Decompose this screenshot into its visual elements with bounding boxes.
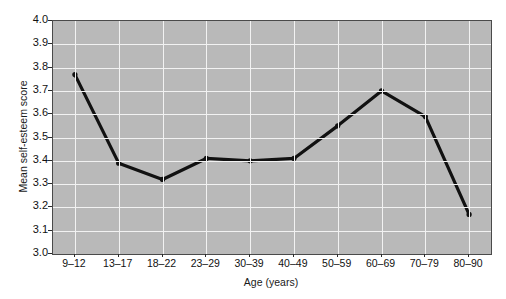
x-tick-mark xyxy=(162,254,163,257)
grid-line-vertical xyxy=(206,21,207,254)
y-tick-label: 3.2 xyxy=(26,200,48,212)
grid-line-vertical xyxy=(163,21,164,254)
grid-line-vertical xyxy=(294,21,295,254)
y-tick-label: 3.7 xyxy=(26,84,48,96)
grid-line-vertical xyxy=(382,21,383,254)
y-tick-value: 3.2 xyxy=(26,200,48,211)
y-tick-label: 3.4 xyxy=(26,154,48,166)
series-polyline xyxy=(75,75,469,215)
y-tick-value: 3.3 xyxy=(26,177,48,188)
grid-line-vertical xyxy=(425,21,426,254)
y-tick-value: 3.8 xyxy=(26,61,48,72)
x-tick-mark xyxy=(337,254,338,257)
y-tick-value: 4.0 xyxy=(26,14,48,25)
x-tick-mark xyxy=(424,254,425,257)
grid-line-vertical xyxy=(250,21,251,254)
y-tick-mark xyxy=(48,253,52,254)
y-tick-label: 3.1 xyxy=(26,224,48,236)
y-tick-value: 3.7 xyxy=(26,84,48,95)
y-tick-label: 4.0 xyxy=(26,14,48,26)
x-axis-title: Age (years) xyxy=(52,276,490,288)
y-tick-mark xyxy=(48,90,52,91)
y-tick-label: 3.8 xyxy=(26,61,48,73)
x-axis-tick-labels: 9–1213–1718–2223–2930–3940–4950–5960–697… xyxy=(0,256,506,272)
y-tick-value: 3.1 xyxy=(26,224,48,235)
x-tick-mark xyxy=(293,254,294,257)
grid-line-vertical xyxy=(338,21,339,254)
y-tick-label: 3.3 xyxy=(26,177,48,189)
y-tick-label: 3.6 xyxy=(26,107,48,119)
x-tick-mark xyxy=(205,254,206,257)
x-tick-mark xyxy=(468,254,469,257)
y-tick-value: 3.5 xyxy=(26,131,48,142)
y-tick-mark xyxy=(48,160,52,161)
grid-line-vertical xyxy=(75,21,76,254)
grid-line-vertical xyxy=(469,21,470,254)
y-tick-mark xyxy=(48,137,52,138)
x-tick-mark xyxy=(381,254,382,257)
series-markers xyxy=(72,72,471,217)
plot-area xyxy=(52,20,492,255)
y-tick-label: 3.5 xyxy=(26,131,48,143)
y-tick-mark xyxy=(48,183,52,184)
y-tick-mark xyxy=(48,20,52,21)
x-tick-mark xyxy=(74,254,75,257)
y-tick-mark xyxy=(48,206,52,207)
y-tick-label: 3.9 xyxy=(26,37,48,49)
y-axis-tick-labels: 4.03.93.83.73.63.53.43.33.23.13.0 xyxy=(26,0,48,299)
y-tick-mark xyxy=(48,67,52,68)
y-tick-mark xyxy=(48,43,52,44)
y-tick-mark xyxy=(48,230,52,231)
y-tick-mark xyxy=(48,113,52,114)
y-tick-value: 3.4 xyxy=(26,154,48,165)
chart-figure: Mean self-esteem score 4.03.93.83.73.63.… xyxy=(0,0,506,299)
y-tick-value: 3.9 xyxy=(26,37,48,48)
grid-line-vertical xyxy=(119,21,120,254)
x-tick-mark xyxy=(118,254,119,257)
x-tick-mark xyxy=(249,254,250,257)
x-tick-label: 80–90 xyxy=(433,256,503,270)
y-tick-value: 3.6 xyxy=(26,107,48,118)
